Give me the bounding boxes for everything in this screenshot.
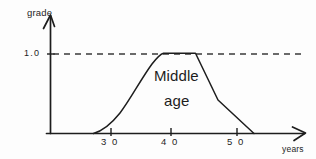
ytick-label-1.0: 1.0 xyxy=(24,49,40,58)
region-label-middle: Middle xyxy=(154,68,199,83)
xtick-label-30: 3 0 xyxy=(101,137,119,147)
xtick-label-40: 4 0 xyxy=(161,137,179,147)
x-axis-ticks xyxy=(111,128,237,136)
fuzzy-membership-figure: grade 1.0 3 0 4 0 5 0 years Middle age xyxy=(0,0,316,159)
y-axis-label: grade xyxy=(27,8,52,18)
xtick-label-50: 5 0 xyxy=(227,137,245,147)
region-label-age: age xyxy=(164,93,189,108)
x-axis-label: years xyxy=(282,145,304,154)
y-axis-group xyxy=(44,15,55,134)
